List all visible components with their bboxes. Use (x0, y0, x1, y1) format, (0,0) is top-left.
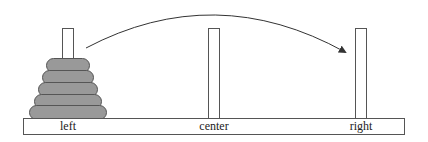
peg-center (208, 28, 220, 119)
label-left: left (60, 119, 76, 134)
peg-right (355, 28, 367, 119)
label-center: center (199, 119, 228, 134)
tower-of-hanoi-diagram: left center right (0, 0, 428, 142)
label-right: right (350, 119, 373, 134)
